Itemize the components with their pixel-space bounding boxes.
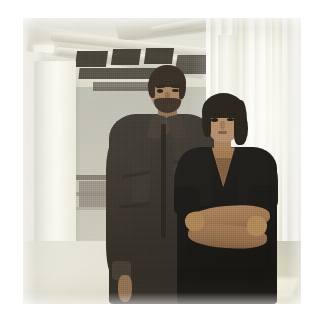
man-hair-side xyxy=(148,77,156,98)
woman-hair-side xyxy=(235,100,247,142)
ceiling-cavity xyxy=(144,48,174,64)
man-eye xyxy=(157,89,163,93)
woman-eye xyxy=(211,118,218,121)
man-mouth xyxy=(163,102,173,104)
subject-woman xyxy=(173,95,290,304)
photograph xyxy=(23,18,301,304)
ceiling-cavity xyxy=(111,49,141,65)
woman-hair-side xyxy=(202,101,211,136)
woman-mouth xyxy=(218,131,227,134)
page-root xyxy=(0,0,319,321)
man-shirt-placket xyxy=(161,124,166,238)
woman-sleeve xyxy=(174,187,200,214)
man-eyebrow xyxy=(171,84,180,88)
ceiling-cavity xyxy=(75,51,108,67)
woman-lower-garment xyxy=(185,241,271,304)
woman-nose xyxy=(220,121,225,129)
man-hand xyxy=(118,275,132,301)
